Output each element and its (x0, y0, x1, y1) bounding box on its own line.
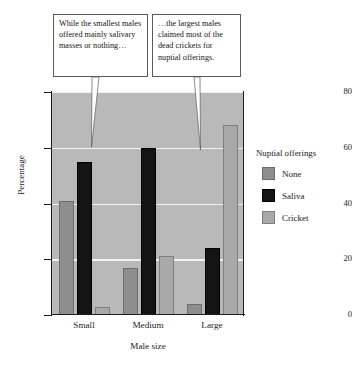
bar-small-none (59, 201, 74, 315)
plot-area (52, 92, 244, 315)
y-axis-title: Percentage (16, 120, 26, 230)
legend-swatch-cricket (262, 211, 275, 224)
gridline-80 (52, 92, 244, 93)
y-tick-label-80: 80 (310, 86, 352, 96)
y-tick-label-0: 0 (310, 309, 352, 319)
callout-box-left: While the smallest males offered mainly … (53, 14, 148, 77)
legend-item-cricket: Cricket (256, 211, 352, 224)
legend-swatch-saliva (262, 189, 275, 202)
bar-small-saliva (77, 162, 92, 315)
legend-swatch-none (262, 167, 275, 180)
y-tick-60 (44, 148, 51, 149)
legend: Nuptial offerings NoneSalivaCricket (256, 148, 352, 233)
legend-label-cricket: Cricket (282, 213, 309, 223)
bar-medium-saliva (141, 148, 156, 315)
bar-medium-cricket (159, 256, 174, 315)
legend-item-none: None (256, 167, 352, 180)
x-label-small: Small (52, 320, 116, 330)
bar-medium-none (123, 268, 138, 315)
x-label-medium: Medium (116, 320, 180, 330)
legend-entries: NoneSalivaCricket (256, 167, 352, 224)
bar-large-saliva (205, 248, 220, 315)
bar-large-cricket (223, 125, 238, 315)
legend-label-none: None (282, 169, 302, 179)
x-label-large: Large (180, 320, 244, 330)
legend-label-saliva: Saliva (282, 191, 305, 201)
legend-item-saliva: Saliva (256, 189, 352, 202)
y-tick-40 (44, 204, 51, 205)
callout-box-right: …the largest males claimed most of the d… (152, 14, 241, 77)
y-tick-20 (44, 259, 51, 260)
y-tick-0 (44, 315, 51, 316)
x-axis-title: Male size (52, 341, 244, 351)
legend-title: Nuptial offerings (256, 148, 352, 158)
chart-figure: While the smallest males offered mainly … (0, 0, 352, 368)
y-tick-label-20: 20 (310, 253, 352, 263)
y-tick-80 (44, 92, 51, 93)
plot-right-border (243, 91, 244, 316)
x-axis-line (51, 314, 245, 315)
y-axis-line (51, 91, 52, 316)
